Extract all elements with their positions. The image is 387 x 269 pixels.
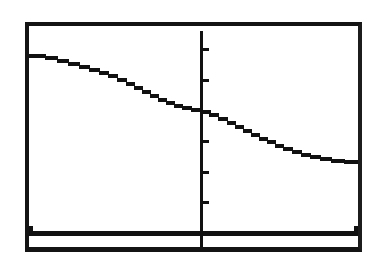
calculator-screenshot (0, 0, 387, 269)
y-axis-ticks (203, 48, 209, 204)
x-axis (29, 226, 358, 236)
curve-series-y1 (29, 54, 358, 164)
calculator-screen-frame (25, 22, 362, 252)
y-axis (200, 31, 203, 247)
plot-svg (29, 26, 358, 247)
plot-area (29, 26, 358, 247)
